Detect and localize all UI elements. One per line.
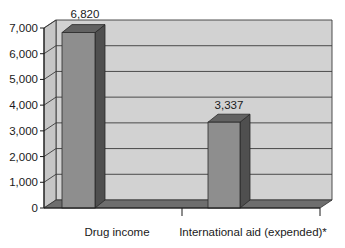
chart-container: 7,000 6,000 5,000 4,000 3,000 2,000 1,00…: [0, 0, 345, 248]
category-label-international-aid: International aid (expended)*: [179, 226, 327, 238]
bar-drug-income-side: [95, 25, 105, 208]
y-axis-ticks: [40, 28, 44, 208]
y-tick-label-3000: 3,000: [9, 125, 38, 137]
bar-chart: 7,000 6,000 5,000 4,000 3,000 2,000 1,00…: [0, 0, 345, 248]
data-label-drug-income: 6,820: [71, 8, 100, 20]
bar-international-aid-front: [208, 122, 240, 208]
y-tick-label-6000: 6,000: [9, 48, 38, 60]
data-label-international-aid: 3,337: [215, 99, 244, 111]
y-tick-label-5000: 5,000: [9, 73, 38, 85]
plot-left-wall: [44, 20, 56, 208]
y-tick-label-2000: 2,000: [9, 151, 38, 163]
category-label-drug-income: Drug income: [84, 226, 149, 238]
y-tick-label-1000: 1,000: [9, 176, 38, 188]
y-tick-label-0: 0: [32, 202, 38, 214]
bar-drug-income[interactable]: [62, 25, 105, 208]
y-tick-label-4000: 4,000: [9, 99, 38, 111]
bar-drug-income-front: [62, 33, 95, 208]
y-tick-label-7000: 7,000: [9, 22, 38, 34]
bar-international-aid-side: [240, 114, 250, 208]
bar-international-aid[interactable]: [208, 114, 250, 208]
